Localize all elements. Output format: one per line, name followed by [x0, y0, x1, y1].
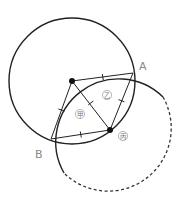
region-label-jia: 甲	[75, 109, 84, 119]
point-label-b: B	[35, 148, 43, 161]
region-label-yi: 乙	[102, 90, 111, 100]
segment-diagonal	[72, 81, 110, 130]
svg-text:乙: 乙	[104, 92, 111, 100]
geometry-diagram: A B 甲 乙 丙	[0, 0, 181, 207]
svg-text:甲: 甲	[77, 111, 84, 119]
point-label-a: A	[139, 60, 147, 73]
center-point-1	[69, 78, 75, 84]
segment-right	[110, 73, 133, 130]
region-label-bing: 丙	[118, 131, 127, 141]
svg-text:丙: 丙	[120, 133, 127, 141]
center-point-2	[107, 127, 113, 133]
